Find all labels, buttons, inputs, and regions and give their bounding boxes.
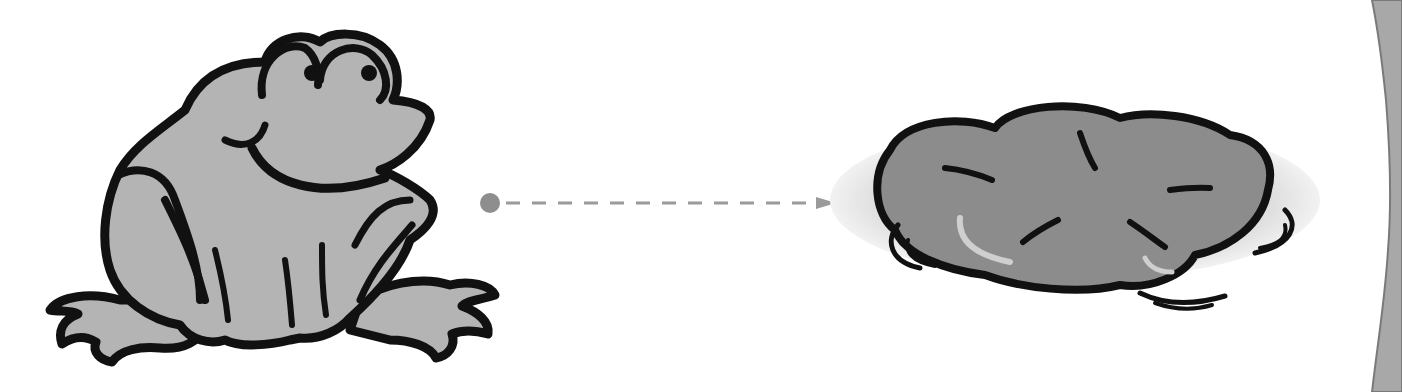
lily-pad-icon bbox=[830, 106, 1320, 308]
frog-icon bbox=[50, 34, 495, 362]
dashed-arrow-icon bbox=[480, 193, 836, 213]
stone-texture-icon bbox=[1372, 0, 1402, 392]
illustration-scene bbox=[0, 0, 1402, 392]
